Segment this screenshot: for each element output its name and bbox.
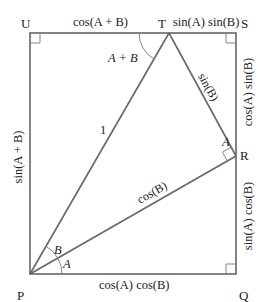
- trig-identity-diagram: P Q S U T R cos(A + B) sin(A) sin(B) cos…: [0, 0, 266, 302]
- label-PQ: cos(A) cos(B): [99, 278, 169, 292]
- point-label-S: S: [241, 16, 248, 31]
- point-label-R: R: [240, 148, 249, 163]
- angle-arc-T: [139, 33, 154, 59]
- label-UT: cos(A + B): [73, 15, 128, 29]
- right-angle-marker-U: [30, 33, 40, 43]
- right-angle-marker-Q: [226, 264, 236, 274]
- right-angle-marker-S: [226, 33, 236, 43]
- label-TS: sin(A) sin(B): [173, 15, 239, 29]
- outer-rectangle: [30, 33, 236, 274]
- angle-label-R: A: [221, 135, 230, 149]
- angle-label-P-lower: A: [62, 257, 71, 271]
- label-RQ: sin(A) cos(B): [241, 182, 255, 250]
- point-label-Q: Q: [239, 288, 249, 302]
- angle-label-T: A + B: [107, 51, 138, 65]
- point-label-U: U: [21, 16, 31, 31]
- angle-label-P-upper: B: [54, 243, 62, 257]
- point-label-T: T: [158, 16, 166, 31]
- label-PR: cos(B): [135, 179, 170, 207]
- label-SR: cos(A) sin(B): [241, 58, 255, 126]
- label-PT: 1: [100, 123, 106, 137]
- point-label-P: P: [17, 288, 24, 302]
- label-UP: sin(A + B): [11, 131, 25, 184]
- segment-PT: [30, 33, 169, 274]
